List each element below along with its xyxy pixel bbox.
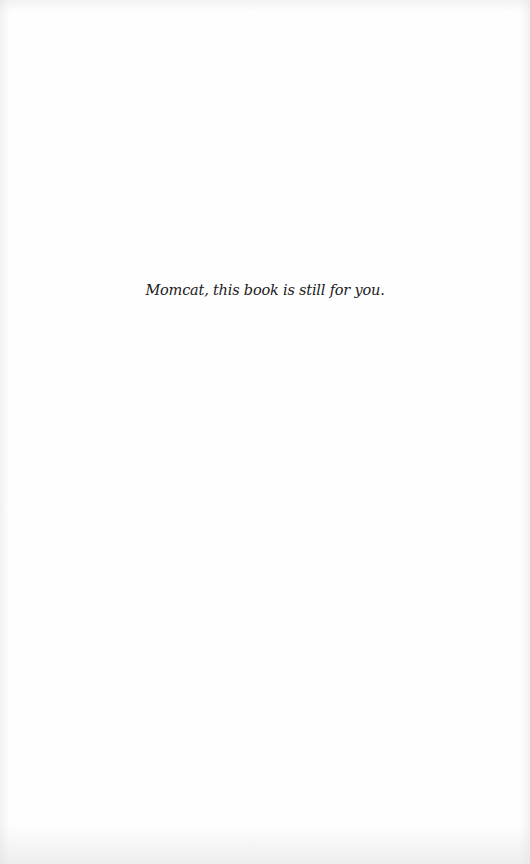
scan-edge-right (520, 0, 530, 864)
scan-edge-bottom (0, 824, 530, 864)
scan-edge-left (0, 0, 10, 864)
dedication-text: Momcat, this book is still for you. (0, 280, 530, 300)
scan-edge-top (0, 0, 530, 12)
book-page: Momcat, this book is still for you. (0, 0, 530, 864)
